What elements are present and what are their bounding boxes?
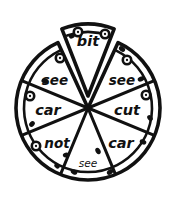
slice-label-left: car (35, 102, 61, 118)
pepperoni-center-icon (145, 94, 147, 96)
slice-label-lower-right: car (108, 135, 134, 151)
slice-label-upper-right: see (109, 72, 135, 88)
pizza-word-wheel-figure: bitseecutcarseenotcarsee (0, 0, 174, 205)
slice-label-upper-left: see (42, 72, 68, 88)
slice-label-top: bit (77, 33, 100, 49)
pepperoni-center-icon (59, 57, 61, 59)
pepperoni-center-icon (35, 145, 37, 147)
slice-label-right: cut (114, 102, 141, 118)
pizza-diagram: bitseecutcarseenotcarsee (0, 0, 174, 205)
pepperoni-center-icon (126, 59, 128, 61)
slice-label-lower-left: not (44, 135, 70, 151)
slice-label-bottom: see (79, 157, 97, 169)
pepperoni-center-icon (104, 33, 106, 35)
pepperoni-center-icon (29, 95, 31, 97)
